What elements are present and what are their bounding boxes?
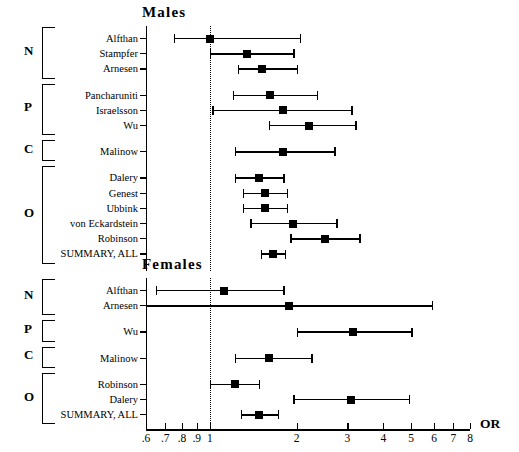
- confidence-interval-line: [238, 68, 297, 69]
- y-tick: [140, 95, 147, 96]
- x-tick: [197, 423, 198, 429]
- ci-upper-cap: [359, 234, 360, 243]
- point-estimate-marker: [231, 380, 239, 388]
- table-row: Genest: [0, 187, 519, 200]
- table-row: Stampfer: [0, 47, 519, 60]
- study-label: Genest: [0, 187, 138, 200]
- point-estimate-marker: [261, 189, 269, 197]
- ci-upper-cap: [411, 328, 412, 337]
- ci-upper-cap: [351, 106, 352, 115]
- confidence-interval-line: [235, 358, 312, 359]
- study-label: Arnesen: [0, 62, 138, 75]
- point-estimate-marker: [243, 50, 251, 58]
- point-estimate-marker: [347, 396, 355, 404]
- point-estimate-marker: [261, 204, 269, 212]
- table-row: Dalery: [0, 393, 519, 406]
- ci-lower-cap: [241, 410, 242, 419]
- ci-lower-cap: [235, 147, 236, 156]
- y-tick: [140, 238, 147, 239]
- x-tick: [165, 423, 166, 429]
- confidence-interval-line: [210, 53, 294, 54]
- table-row: Malinow: [0, 352, 519, 365]
- ci-lower-cap: [243, 189, 244, 198]
- x-tick: [347, 423, 348, 429]
- ci-upper-cap: [355, 121, 356, 130]
- point-estimate-marker: [266, 91, 274, 99]
- y-tick: [140, 53, 147, 54]
- x-tick: [182, 423, 183, 429]
- ci-upper-cap: [297, 65, 298, 74]
- ci-lower-cap: [174, 34, 175, 43]
- ci-upper-cap: [300, 34, 301, 43]
- table-row: Arnesen: [0, 62, 519, 75]
- x-tick-label: 5: [399, 432, 423, 444]
- ci-upper-cap: [293, 49, 294, 58]
- study-label: Dalery: [0, 171, 138, 184]
- study-label: SUMMARY, ALL: [0, 408, 138, 421]
- point-estimate-marker: [220, 287, 228, 295]
- table-row: Alfthan: [0, 284, 519, 297]
- point-estimate-marker: [279, 148, 287, 156]
- study-label: Wu: [0, 119, 138, 132]
- x-axis-title: OR: [480, 416, 500, 432]
- ci-upper-cap: [283, 174, 284, 183]
- point-estimate-marker: [349, 328, 357, 336]
- x-tick-label: 8: [458, 432, 482, 444]
- table-row: Israelsson: [0, 104, 519, 117]
- y-tick: [140, 193, 147, 194]
- table-row: Dalery: [0, 171, 519, 184]
- y-tick: [140, 177, 147, 178]
- ci-upper-cap: [287, 204, 288, 213]
- ci-lower-cap: [212, 106, 213, 115]
- y-tick: [140, 68, 147, 69]
- ci-lower-cap: [235, 174, 236, 183]
- x-tick-label: 3: [335, 432, 359, 444]
- ci-lower-cap: [250, 219, 251, 228]
- table-row: Wu: [0, 325, 519, 338]
- x-tick: [210, 423, 211, 429]
- point-estimate-marker: [289, 220, 297, 228]
- point-estimate-marker: [305, 122, 313, 130]
- x-tick: [453, 423, 454, 429]
- table-row: von Eckardstein: [0, 217, 519, 230]
- y-tick: [140, 208, 147, 209]
- study-label: Robinson: [0, 378, 138, 391]
- study-label: Dalery: [0, 393, 138, 406]
- y-tick: [140, 358, 147, 359]
- y-tick: [140, 110, 147, 111]
- ci-upper-cap: [334, 147, 335, 156]
- table-row: Robinson: [0, 378, 519, 391]
- table-row: Malinow: [0, 145, 519, 158]
- confidence-interval-line: [233, 95, 317, 96]
- point-estimate-marker: [285, 302, 293, 310]
- ci-lower-cap: [210, 49, 211, 58]
- study-label: Malinow: [0, 352, 138, 365]
- ci-lower-cap: [290, 234, 291, 243]
- x-tick: [411, 423, 412, 429]
- ci-upper-cap: [287, 189, 288, 198]
- ci-lower-cap: [243, 204, 244, 213]
- ci-lower-cap: [238, 65, 239, 74]
- x-tick: [470, 423, 471, 429]
- x-tick: [297, 423, 298, 429]
- x-tick: [383, 423, 384, 429]
- ci-upper-cap: [278, 410, 279, 419]
- point-estimate-marker: [206, 35, 214, 43]
- table-row: Arnesen: [0, 299, 519, 312]
- x-tick-label: 2: [285, 432, 309, 444]
- ci-lower-cap: [146, 301, 147, 310]
- table-row: Alfthan: [0, 32, 519, 45]
- study-label: Israelsson: [0, 104, 138, 117]
- panel-females: Females NPCOAlfthanArnesenWuMalinowRobin…: [0, 252, 519, 452]
- ci-lower-cap: [210, 380, 211, 389]
- plot-area-males: NPCOAlfthanStampferArnesenPancharunitiIs…: [0, 0, 519, 252]
- ci-upper-cap: [317, 91, 318, 100]
- x-tick-label: 4: [371, 432, 395, 444]
- ci-lower-cap: [269, 121, 270, 130]
- study-label: Ubbink: [0, 202, 138, 215]
- study-label: von Eckardstein: [0, 217, 138, 230]
- y-tick: [140, 125, 147, 126]
- y-tick: [140, 414, 147, 415]
- x-tick-label: 1: [198, 432, 222, 444]
- confidence-interval-line: [174, 38, 300, 39]
